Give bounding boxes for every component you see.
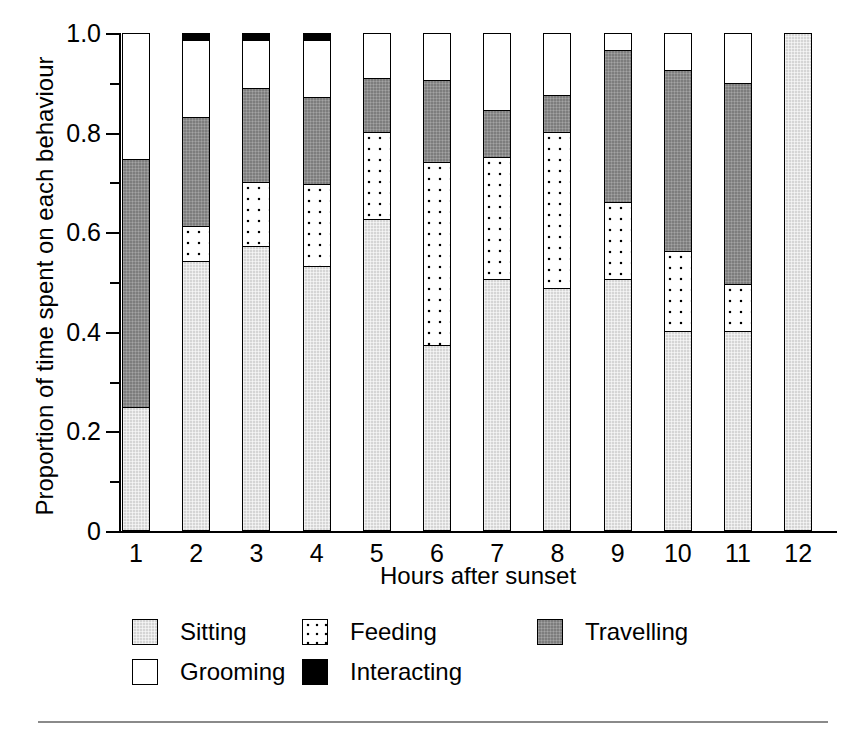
y-tick-label: 0.8: [66, 118, 101, 147]
bar-segment-interacting: [243, 34, 269, 41]
bar-segment-feeding: [484, 158, 510, 280]
legend-swatch-grooming: [132, 659, 158, 685]
bar-segment-sitting: [605, 280, 631, 530]
y-tick-minor: [110, 83, 120, 85]
bar-segment-grooming: [304, 41, 330, 98]
y-tick-major: [106, 332, 120, 334]
y-tick-label: 0.4: [66, 317, 101, 346]
bar-segment-sitting: [544, 289, 570, 530]
bar-hour-10[interactable]: [664, 33, 692, 531]
bar-segment-grooming: [484, 34, 510, 111]
bar-segment-sitting: [785, 34, 811, 530]
bar-segment-feeding: [605, 203, 631, 280]
bar-segment-grooming: [364, 34, 390, 79]
bar-segment-feeding: [304, 185, 330, 267]
bar-segment-feeding: [665, 252, 691, 331]
legend-item-feeding[interactable]: Feeding: [302, 618, 537, 646]
bar-segment-feeding: [725, 285, 751, 332]
bar-hour-4[interactable]: [303, 33, 331, 531]
legend-row: GroomingInteracting: [132, 652, 822, 692]
y-tick-minor: [110, 282, 120, 284]
bar-hour-9[interactable]: [604, 33, 632, 531]
bar-segment-grooming: [243, 41, 269, 88]
bar-hour-3[interactable]: [242, 33, 270, 531]
bar-segment-grooming: [544, 34, 570, 96]
legend-label-grooming: Grooming: [180, 658, 285, 686]
bar-segment-grooming: [183, 41, 209, 118]
bar-segment-grooming: [123, 34, 149, 160]
y-tick-major: [106, 531, 120, 533]
y-tick-label: 0: [87, 517, 101, 546]
legend-label-feeding: Feeding: [350, 618, 437, 646]
y-tick-minor: [110, 481, 120, 483]
y-tick-major: [106, 33, 120, 35]
x-axis-title: Hours after sunset: [119, 562, 837, 590]
bar-segment-grooming: [424, 34, 450, 81]
bar-segment-feeding: [243, 183, 269, 247]
bar-segment-sitting: [484, 280, 510, 530]
legend-item-interacting[interactable]: Interacting: [302, 658, 537, 686]
bar-hour-1[interactable]: [122, 33, 150, 531]
y-tick-label: 0.2: [66, 417, 101, 446]
bar-segment-travelling: [665, 71, 691, 252]
bar-segment-grooming: [665, 34, 691, 71]
legend-item-grooming[interactable]: Grooming: [132, 658, 302, 686]
legend-swatch-interacting: [302, 659, 328, 685]
y-tick-minor: [110, 182, 120, 184]
y-tick-label: 1.0: [66, 19, 101, 48]
bar-segment-travelling: [123, 160, 149, 408]
bar-segment-travelling: [364, 79, 390, 134]
stacked-bar-chart-figure: Proportion of time spent on each behavio…: [0, 0, 846, 733]
legend-swatch-sitting: [132, 619, 158, 645]
bar-hour-11[interactable]: [724, 33, 752, 531]
bar-hour-7[interactable]: [483, 33, 511, 531]
x-axis-line: [119, 531, 837, 533]
bar-segment-travelling: [243, 89, 269, 183]
bar-segment-feeding: [544, 133, 570, 289]
legend-swatch-travelling: [537, 619, 563, 645]
bar-segment-feeding: [424, 163, 450, 347]
bar-segment-travelling: [725, 84, 751, 285]
bar-segment-travelling: [304, 98, 330, 185]
y-axis-title: Proportion of time spent on each behavio…: [31, 26, 59, 546]
bar-segment-sitting: [364, 220, 390, 530]
bar-hour-2[interactable]: [182, 33, 210, 531]
bar-segment-travelling: [424, 81, 450, 163]
bar-segment-grooming: [605, 34, 631, 51]
bar-segment-sitting: [123, 408, 149, 530]
legend-swatch-feeding: [302, 619, 328, 645]
bar-hour-8[interactable]: [543, 33, 571, 531]
y-tick-major: [106, 431, 120, 433]
bar-segment-grooming: [725, 34, 751, 84]
bar-hour-6[interactable]: [423, 33, 451, 531]
bar-segment-travelling: [605, 51, 631, 202]
bar-segment-sitting: [665, 332, 691, 530]
y-tick-label: 0.6: [66, 218, 101, 247]
bar-segment-interacting: [304, 34, 330, 41]
bar-segment-feeding: [364, 133, 390, 220]
bar-segment-sitting: [304, 267, 330, 530]
bar-segment-feeding: [183, 227, 209, 262]
y-tick-major: [106, 133, 120, 135]
legend-item-sitting[interactable]: Sitting: [132, 618, 302, 646]
bottom-divider-rule: [38, 721, 828, 723]
bar-segment-travelling: [544, 96, 570, 133]
y-tick-minor: [110, 382, 120, 384]
bar-segment-sitting: [183, 262, 209, 530]
legend-row: SittingFeedingTravelling: [132, 612, 822, 652]
bar-segment-travelling: [484, 111, 510, 158]
legend-item-travelling[interactable]: Travelling: [537, 618, 767, 646]
legend-label-travelling: Travelling: [585, 618, 688, 646]
bar-segment-travelling: [183, 118, 209, 227]
bar-segment-sitting: [243, 247, 269, 530]
legend-label-interacting: Interacting: [350, 658, 462, 686]
legend-label-sitting: Sitting: [180, 618, 247, 646]
bar-segment-interacting: [183, 34, 209, 41]
bar-segment-sitting: [725, 332, 751, 530]
legend: SittingFeedingTravellingGroomingInteract…: [132, 612, 822, 692]
bar-hour-5[interactable]: [363, 33, 391, 531]
y-tick-major: [106, 232, 120, 234]
bar-hour-12[interactable]: [784, 33, 812, 531]
bar-segment-sitting: [424, 346, 450, 530]
plot-area: 00.20.40.60.81.0 123456789101112: [119, 33, 837, 531]
